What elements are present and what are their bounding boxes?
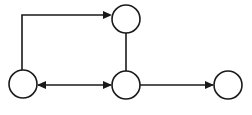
graph-node-top[interactable]: [112, 5, 140, 33]
edge-left-middle-arrowhead-start: [37, 81, 46, 89]
graph-node-right[interactable]: [214, 71, 242, 99]
edge-left-to-top: [22, 11, 112, 70]
edge-left-middle-bidirectional: [37, 81, 112, 89]
graph-node-middle[interactable]: [112, 71, 140, 99]
edge-middle-to-right: [140, 81, 214, 89]
graph-node-left[interactable]: [9, 70, 37, 98]
edge-left-middle-arrowhead-end: [103, 81, 112, 89]
directed-graph-svg: Directed graph with four nodes: [0, 0, 252, 115]
edge-middle-to-right-arrowhead-end: [205, 81, 214, 89]
edge-left-to-top-line: [22, 15, 110, 70]
edge-left-to-top-arrowhead-end: [103, 11, 112, 19]
diagram-canvas: Directed graph with four nodes: [0, 0, 252, 115]
